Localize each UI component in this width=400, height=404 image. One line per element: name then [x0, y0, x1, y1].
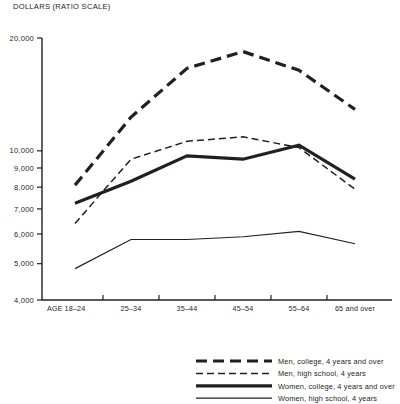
data-series-group [75, 52, 355, 269]
chart-plot-area: 4,0005,0006,0007,0008,0009,00010,00020,0… [0, 0, 400, 404]
x-axis: AGE18–2425–3435–4445–5455–6465 and over [42, 295, 392, 313]
legend-label: Men, college, 4 years and over [278, 357, 384, 366]
y-axis-tick-label: 8,000 [14, 183, 34, 192]
x-axis-caption: AGE [47, 304, 63, 313]
x-axis-tick-label: 65 and over [335, 304, 376, 313]
data-series-line [75, 145, 355, 203]
data-series-line [75, 137, 355, 224]
chart-container: DOLLARS (RATIO SCALE) 4,0005,0006,0007,0… [0, 0, 400, 404]
x-axis-tick-label: 45–54 [233, 304, 254, 313]
y-axis: 4,0005,0006,0007,0008,0009,00010,00020,0… [10, 34, 42, 305]
y-axis-tick-label: 20,000 [10, 34, 34, 43]
x-axis-tick-label: 35–44 [177, 304, 198, 313]
data-series-line [75, 231, 355, 268]
y-axis-tick-label: 5,000 [14, 259, 34, 268]
y-axis-tick-label: 7,000 [14, 205, 34, 214]
y-axis-tick-label: 4,000 [14, 296, 34, 305]
data-series-line [75, 52, 355, 186]
x-axis-tick-label: 55–64 [289, 304, 310, 313]
x-axis-tick-label: 25–34 [121, 304, 142, 313]
y-axis-tick-label: 10,000 [10, 146, 34, 155]
y-axis-tick-label: 6,000 [14, 230, 34, 239]
legend-label: Men, high school, 4 years [278, 369, 366, 378]
legend-label: Women, high school, 4 years [278, 394, 377, 403]
chart-legend: Men, college, 4 years and overMen, high … [196, 357, 395, 403]
legend-label: Women, college, 4 years and over [278, 382, 395, 391]
x-axis-tick-label: 18–24 [65, 304, 86, 313]
y-axis-tick-label: 9,000 [14, 164, 34, 173]
